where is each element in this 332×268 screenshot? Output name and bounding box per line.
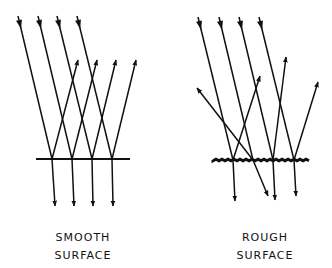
rough-reflected-ray [233,76,260,160]
rough-transmitted-ray [233,160,235,201]
smooth-reflected-ray [72,60,97,159]
smooth-incident-ray [18,16,52,159]
smooth-reflected-ray [112,60,136,159]
rough-incident-ray [198,17,233,160]
smooth-incident-arrow-icon [36,19,42,28]
smooth-incident-ray [57,16,92,159]
rough-reflected-ray [273,57,286,160]
rough-label-line2: SURFACE [222,247,308,265]
smooth-transmitted-ray [112,159,113,206]
rough-incident-arrow-icon [217,20,223,29]
smooth-incident-arrow-icon [16,19,22,28]
smooth-label-line1: SMOOTH [40,229,126,247]
reflection-diagram [0,0,332,268]
rough-transmitted-ray [253,160,268,196]
rough-incident-arrow-icon [237,20,243,29]
rough-incident-ray [259,17,294,160]
smooth-transmitted-ray [92,159,93,206]
rough-label-line1: ROUGH [222,229,308,247]
rough-incident-arrow-icon [257,20,263,29]
rough-transmitted-ray [273,160,275,200]
smooth-incident-arrow-icon [55,19,61,28]
smooth-transmitted-ray [52,159,55,206]
rough-incident-arrow-icon [196,20,202,29]
smooth-transmitted-ray [72,159,74,206]
smooth-incident-ray [38,16,72,159]
rough-surface-label: ROUGH SURFACE [222,229,308,265]
smooth-reflected-ray [52,60,78,159]
rough-transmitted-ray [294,160,296,196]
smooth-label-line2: SURFACE [40,247,126,265]
smooth-reflected-ray [92,60,116,159]
smooth-surface-label: SMOOTH SURFACE [40,229,126,265]
smooth-incident-ray [77,16,112,159]
rough-reflected-ray [294,82,318,160]
smooth-incident-arrow-icon [75,19,81,28]
